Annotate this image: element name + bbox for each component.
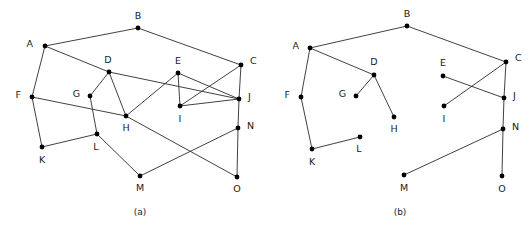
edge-l-m [97,134,140,176]
vertex-e[interactable] [176,71,181,76]
vertex-label-h: H [390,123,397,134]
edge-d-h [374,75,394,117]
vertex-label-f: F [16,89,21,100]
edge-c-i [444,62,506,106]
vertex-m[interactable] [138,174,143,179]
vertex-label-e: E [175,55,181,66]
edge-b-c [138,28,241,65]
vertex-label-i: I [179,113,182,124]
edge-k-l [42,134,97,147]
edge-h-o [126,116,237,177]
vertex-b[interactable] [136,26,141,31]
vertex-d[interactable] [107,70,112,75]
panel-a-edges [32,28,241,177]
edge-a-b [310,26,407,48]
edge-a-f [301,48,310,97]
vertex-label-n: N [247,120,254,131]
edge-d-h [109,72,126,116]
edge-b-c [407,26,506,62]
vertex-h[interactable] [392,115,397,120]
edge-a-d [310,48,374,75]
edge-f-k [301,97,312,149]
vertex-label-d: D [370,56,377,67]
vertex-label-m: M [400,182,408,193]
vertex-l[interactable] [95,132,100,137]
vertex-label-e: E [440,57,446,68]
vertex-label-c: C [515,52,522,63]
edge-m-n [404,129,503,175]
vertex-label-j: J [247,91,251,102]
edge-n-o [237,128,238,177]
vertex-label-l: L [93,141,99,152]
vertex-b[interactable] [405,24,410,29]
vertex-i[interactable] [178,104,183,109]
vertex-label-d: D [104,54,111,65]
edge-d-g [90,72,109,96]
vertex-e[interactable] [441,74,446,79]
vertex-l[interactable] [358,135,363,140]
vertex-j[interactable] [237,97,242,102]
vertex-f[interactable] [30,95,35,100]
edge-e-i [178,73,180,106]
vertex-a[interactable] [308,46,313,51]
vertex-label-k: K [39,154,46,165]
vertex-label-o: O [233,183,240,194]
edge-d-g [356,75,374,96]
panel-a-graph: ABCDEFGHIJKLMNO [16,10,257,194]
edge-f-h [32,97,126,116]
vertex-label-f: F [285,89,290,100]
caption-panel-a: (a) [134,207,147,217]
edge-h-e [126,73,178,116]
panel-b-edges [301,26,506,176]
vertex-a[interactable] [43,44,48,49]
vertex-label-h: H [122,122,129,133]
vertex-h[interactable] [124,114,129,119]
vertex-d[interactable] [372,73,377,78]
graph-figure-canvas: ABCDEFGHIJKLMNO ABCDEFGHIJKLMNO (a)(b) [0,0,531,235]
vertex-k[interactable] [40,145,45,150]
vertex-n[interactable] [236,126,241,131]
vertex-g[interactable] [88,94,93,99]
edge-j-n [503,98,504,129]
vertex-i[interactable] [442,104,447,109]
edge-n-o [502,129,503,176]
caption-panel-b: (b) [394,207,407,217]
vertex-c[interactable] [239,63,244,68]
vertex-label-g: G [339,88,346,99]
vertex-k[interactable] [310,147,315,152]
edge-m-n [140,128,238,176]
vertex-n[interactable] [501,127,506,132]
edge-e-j [443,76,504,98]
edge-f-k [32,97,42,147]
panel-b-spanning-tree: ABCDEFGHIJKLMNO [285,8,522,194]
vertex-m[interactable] [402,173,407,178]
vertex-f[interactable] [299,95,304,100]
vertex-label-b: B [135,10,142,21]
edge-a-d [45,46,109,72]
vertex-label-c: C [250,55,257,66]
vertex-label-i: I [443,113,446,124]
vertex-c[interactable] [504,60,509,65]
panel-b-vertices: ABCDEFGHIJKLMNO [285,8,522,194]
vertex-label-o: O [498,183,505,194]
edge-c-j [239,65,241,99]
edge-g-l [90,96,97,134]
vertex-label-k: K [309,156,316,167]
edge-j-n [238,99,239,128]
edge-a-f [32,46,45,97]
edge-e-j [178,73,239,99]
vertex-label-a: A [27,38,34,49]
vertex-label-j: J [512,90,516,101]
vertex-label-g: G [73,88,80,99]
edge-k-l [312,137,360,149]
edge-c-j [504,62,506,98]
vertex-j[interactable] [502,96,507,101]
vertex-label-n: N [512,121,519,132]
vertex-label-l: L [356,143,362,154]
figure-root: ABCDEFGHIJKLMNO ABCDEFGHIJKLMNO (a)(b) [0,0,531,235]
vertex-label-b: B [404,8,411,19]
vertex-o[interactable] [500,174,505,179]
vertex-label-a: A [293,40,300,51]
vertex-g[interactable] [354,94,359,99]
vertex-o[interactable] [235,175,240,180]
